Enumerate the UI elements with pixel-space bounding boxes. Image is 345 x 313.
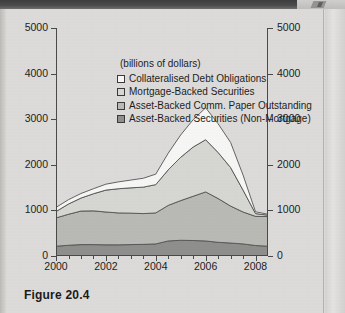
- x-tick-minor: [143, 256, 144, 259]
- x-axis: [56, 255, 268, 256]
- legend-units-note: (billions of dollars): [120, 58, 312, 71]
- x-tick-label: 2002: [94, 261, 117, 272]
- y-tick: [51, 28, 56, 29]
- area-series: [56, 140, 268, 218]
- y-tick: [268, 256, 273, 257]
- x-tick-minor: [243, 256, 244, 259]
- legend-item-label: Mortgage-Backed Securities: [129, 86, 255, 99]
- x-tick-minor: [93, 256, 94, 259]
- x-tick-minor: [131, 256, 132, 259]
- x-tick-label: 2000: [44, 261, 67, 272]
- x-tick-minor: [193, 256, 194, 259]
- y-tick: [268, 210, 273, 211]
- legend-item-label: Collateralised Debt Obligations: [129, 73, 266, 86]
- x-tick-minor: [181, 256, 182, 259]
- legend-swatch-icon: [117, 75, 125, 83]
- x-tick-minor: [69, 256, 70, 259]
- y-tick-label: 1000: [277, 204, 300, 215]
- y-tick-label: 3000: [25, 113, 48, 124]
- x-tick-minor: [231, 256, 232, 259]
- y-tick: [268, 28, 273, 29]
- legend-item: Collateralised Debt Obligations: [117, 73, 312, 86]
- x-tick-minor: [118, 256, 119, 259]
- y-tick: [51, 210, 56, 211]
- chart-legend: (billions of dollars) Collateralised Deb…: [117, 58, 312, 127]
- y-tick-label: 0: [277, 250, 283, 261]
- page-column-rule: [323, 9, 324, 313]
- y-tick-label: 2000: [277, 159, 300, 170]
- legend-swatch-icon: [117, 115, 125, 123]
- page-right-edge: [325, 9, 345, 313]
- legend-swatch-icon: [117, 88, 125, 96]
- legend-item: Asset-Backed Securities (Non-Mortgage): [117, 113, 312, 126]
- stacked-area-chart: 010002000300040005000 010002000300040005…: [8, 14, 316, 276]
- plot-area: 010002000300040005000 010002000300040005…: [56, 28, 268, 256]
- y-tick-label: 5000: [277, 22, 300, 33]
- legend-item: Asset-Backed Comm. Paper Outstanding: [117, 100, 312, 113]
- x-tick-minor: [218, 256, 219, 259]
- y-tick: [51, 165, 56, 166]
- y-tick-label: 1000: [25, 204, 48, 215]
- x-tick-label: 2008: [244, 261, 267, 272]
- y-tick-label: 2000: [25, 159, 48, 170]
- x-tick-minor: [81, 256, 82, 259]
- figure-caption: Figure 20.4: [24, 288, 90, 302]
- x-tick-minor: [168, 256, 169, 259]
- y-tick: [51, 119, 56, 120]
- y-axis-left: [56, 28, 57, 256]
- y-tick: [51, 74, 56, 75]
- y-tick: [268, 165, 273, 166]
- y-tick-label: 5000: [25, 22, 48, 33]
- legend-item-label: Asset-Backed Comm. Paper Outstanding: [129, 100, 312, 113]
- legend-items: Collateralised Debt ObligationsMortgage-…: [117, 73, 312, 126]
- page-left-edge: [0, 9, 6, 313]
- page-header-band: [0, 0, 345, 9]
- legend-item-label: Asset-Backed Securities (Non-Mortgage): [129, 113, 311, 126]
- x-tick-label: 2004: [144, 261, 167, 272]
- x-tick-label: 2006: [194, 261, 217, 272]
- legend-swatch-icon: [117, 102, 125, 110]
- figure-page: 010002000300040005000 010002000300040005…: [0, 0, 345, 313]
- y-tick-label: 4000: [25, 68, 48, 79]
- y-tick-label: 0: [42, 250, 48, 261]
- legend-item: Mortgage-Backed Securities: [117, 86, 312, 99]
